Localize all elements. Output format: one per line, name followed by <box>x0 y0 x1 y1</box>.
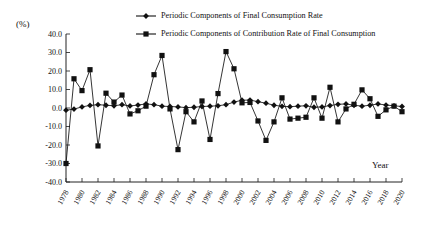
data-point-marker <box>151 72 156 77</box>
data-point-marker <box>87 67 92 72</box>
x-tick-label: 1978 <box>55 188 70 206</box>
data-point-marker <box>223 102 229 108</box>
data-point-marker <box>95 143 100 148</box>
data-point-marker <box>335 101 341 107</box>
data-point-marker <box>263 138 268 143</box>
data-point-marker <box>119 102 125 108</box>
data-point-marker <box>63 161 68 166</box>
data-point-marker <box>367 96 372 101</box>
data-point-marker <box>215 91 220 96</box>
data-point-marker <box>191 119 196 124</box>
data-point-marker <box>159 103 165 109</box>
x-tick-label: 2000 <box>231 188 246 206</box>
legend-label-1: Periodic Components of Final Consumption… <box>161 11 323 20</box>
data-point-marker <box>343 106 348 111</box>
x-tick-label: 1994 <box>183 188 198 206</box>
data-point-marker <box>207 103 213 109</box>
data-point-marker <box>327 103 333 109</box>
y-tick-label: 40.0 <box>48 30 62 39</box>
data-point-marker <box>311 95 316 100</box>
data-point-marker <box>231 66 236 71</box>
data-point-marker <box>71 76 76 81</box>
data-point-marker <box>303 103 309 109</box>
x-tick-label: 2014 <box>343 188 358 206</box>
data-point-marker <box>143 104 148 109</box>
data-point-marker <box>319 116 324 121</box>
data-point-marker <box>87 103 93 109</box>
data-point-marker <box>295 116 300 121</box>
y-tick-label: 30.0 <box>48 48 62 57</box>
data-point-marker <box>303 115 308 120</box>
legend-marker-square-icon <box>143 31 148 36</box>
data-point-marker <box>263 100 269 106</box>
x-tick-label: 2010 <box>311 188 326 206</box>
data-point-marker <box>71 106 77 112</box>
series-plots <box>63 49 405 166</box>
data-point-marker <box>359 87 364 92</box>
data-point-marker <box>199 98 204 103</box>
x-tick-label: 2012 <box>327 188 342 206</box>
x-tick-label: 2006 <box>279 188 294 206</box>
periodic-components-line-chart: Periodic Components of Final Consumption… <box>0 0 431 225</box>
x-tick-label: 1982 <box>87 188 102 206</box>
x-tick-label: 1990 <box>151 188 166 206</box>
data-point-marker <box>231 99 237 105</box>
y-tick-label: -40.0 <box>45 178 62 187</box>
y-tick-label: 0.0 <box>52 104 62 113</box>
x-tick-label: 1986 <box>119 188 134 206</box>
data-point-marker <box>255 118 260 123</box>
x-tick-label: 1996 <box>199 188 214 206</box>
x-tick-label: 1988 <box>135 188 150 206</box>
data-point-marker <box>383 102 389 108</box>
data-point-marker <box>151 102 157 108</box>
data-point-marker <box>167 106 172 111</box>
x-tick-label: 2002 <box>247 188 262 206</box>
data-point-marker <box>271 119 276 124</box>
data-point-marker <box>191 104 197 110</box>
data-point-marker <box>119 92 124 97</box>
data-point-marker <box>135 102 141 108</box>
data-point-marker <box>335 119 340 124</box>
x-tick-label: 2008 <box>295 188 310 206</box>
data-point-marker <box>375 114 380 119</box>
data-point-marker <box>399 109 404 114</box>
data-point-marker <box>223 49 228 54</box>
data-point-marker <box>207 137 212 142</box>
data-point-marker <box>135 108 140 113</box>
x-tick-label: 2018 <box>375 188 390 206</box>
data-point-marker <box>159 53 164 58</box>
data-point-marker <box>279 95 284 100</box>
y-tick-label: -10.0 <box>45 122 62 131</box>
legend-label-2: Periodic Components of Contribution Rate… <box>161 29 375 38</box>
y-tick-label: 20.0 <box>48 67 62 76</box>
data-point-marker <box>183 109 188 114</box>
data-point-marker <box>175 147 180 152</box>
x-tick-label: 2020 <box>391 188 406 206</box>
y-axis-unit-label: (%) <box>16 19 30 29</box>
y-tick-label: -30.0 <box>45 159 62 168</box>
data-point-marker <box>79 88 84 93</box>
data-point-marker <box>103 91 108 96</box>
x-tick-label: 2016 <box>359 188 374 206</box>
data-point-marker <box>271 102 277 108</box>
legend-marker-diamond-icon <box>143 13 149 19</box>
legend: Periodic Components of Final Consumption… <box>136 11 375 38</box>
x-tick-label: 1998 <box>215 188 230 206</box>
x-tick-label: 1980 <box>71 188 86 206</box>
data-point-marker <box>359 103 365 109</box>
data-point-marker <box>127 111 132 116</box>
data-point-marker <box>295 103 301 109</box>
x-tick-label: 1992 <box>167 188 182 206</box>
data-point-marker <box>343 101 349 107</box>
x-tick-label: 2004 <box>263 188 278 206</box>
data-point-marker <box>287 104 293 110</box>
y-tick-label: -20.0 <box>45 141 62 150</box>
data-point-marker <box>375 101 381 107</box>
data-point-marker <box>127 103 133 109</box>
data-point-marker <box>383 107 388 112</box>
data-point-marker <box>391 104 396 109</box>
data-point-marker <box>287 117 292 122</box>
data-point-marker <box>175 104 181 110</box>
data-point-marker <box>351 102 356 107</box>
data-point-marker <box>239 100 244 105</box>
